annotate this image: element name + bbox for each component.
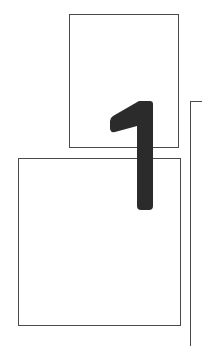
numeral-text: 1: [0, 0, 1, 1]
upper-page-frame: [69, 14, 179, 148]
right-bracket-line: [190, 101, 202, 346]
lower-page-frame: [18, 158, 181, 326]
